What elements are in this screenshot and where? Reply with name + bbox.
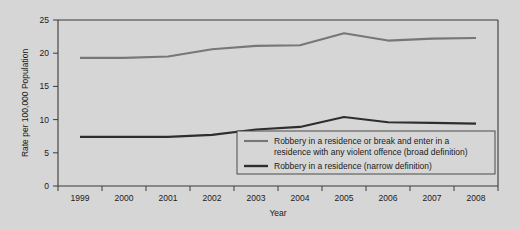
y-tick-label-20: 20 [40,48,50,58]
y-tick-label-5: 5 [44,148,49,158]
x-tick-label-2001: 2001 [159,193,178,203]
y-tick-label-10: 10 [40,115,50,125]
x-tick-label-1999: 1999 [71,193,90,203]
x-axis-title: Year [269,208,286,218]
x-tick-label-2000: 2000 [115,193,134,203]
x-tick-label-2006: 2006 [379,193,398,203]
legend-label-narrow: Robbery in a residence (narrow definitio… [274,161,432,171]
x-tick-label-2004: 2004 [291,193,310,203]
y-tick-label-25: 25 [40,15,50,25]
x-tick-label-2005: 2005 [335,193,354,203]
y-tick-label-15: 15 [40,81,50,91]
legend-label-broad-line1: Robbery in a residence or break and ente… [274,136,450,146]
y-tick-label-0: 0 [44,181,49,191]
x-tick-label-2007: 2007 [423,193,442,203]
legend-label-broad-line2: residence with any violent offence (broa… [274,147,468,157]
x-tick-label-2002: 2002 [203,193,222,203]
y-axis-title: Rate per 100,000 Population [20,49,30,157]
x-tick-label-2008: 2008 [467,193,486,203]
chart-legend: Robbery in a residence or break and ente… [237,131,495,174]
line-chart: 0 5 10 15 20 25 Rate per 100,000 Populat… [0,0,520,230]
x-tick-label-2003: 2003 [247,193,266,203]
